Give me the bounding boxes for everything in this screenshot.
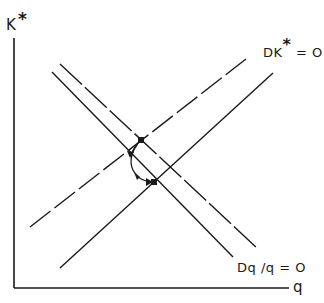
dk-star-label-text: DK <box>263 45 283 60</box>
x-axis-label: q <box>293 278 303 296</box>
dk-star-label-suffix: = O <box>291 45 322 60</box>
dq-over-q-zero-line <box>52 72 233 257</box>
arrow-head-icon <box>134 172 140 180</box>
dq-over-q-zero-label: Dq /q = O <box>237 260 306 275</box>
dk-star-zero-label: DK* = O <box>263 42 323 61</box>
dk-star-label-superscript: * <box>283 35 292 54</box>
dk-star-zero-line <box>60 73 273 268</box>
dq-over-q-shifted-dashed-line <box>60 64 257 248</box>
y-axis-label-text: K <box>6 16 16 34</box>
y-axis-label-superscript: * <box>18 9 27 29</box>
y-axis-label: K * <box>6 16 16 34</box>
